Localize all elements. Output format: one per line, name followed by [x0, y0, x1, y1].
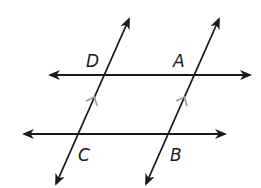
lines-layer — [24, 19, 250, 184]
point-label-d: D — [86, 51, 99, 71]
left-transversal — [56, 19, 129, 184]
point-label-a: A — [172, 51, 185, 71]
diagram-canvas: DACB — [0, 0, 261, 188]
point-label-c: C — [78, 145, 90, 165]
point-labels-layer: DACB — [78, 51, 185, 165]
parallel-markers-layer — [86, 95, 190, 106]
right-transversal — [146, 19, 219, 184]
point-label-b: B — [170, 145, 182, 165]
